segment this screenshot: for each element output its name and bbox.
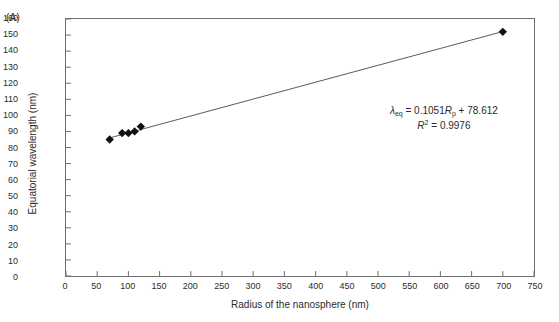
y-tick-label: 140 bbox=[0, 45, 18, 55]
y-tick-label: 50 bbox=[0, 191, 18, 201]
y-tick-label: 160 bbox=[0, 13, 18, 23]
y-tick-label: 70 bbox=[0, 159, 18, 169]
y-tick-label: 10 bbox=[0, 256, 18, 266]
y-tick-label: 110 bbox=[0, 94, 18, 104]
y-tick-label: 20 bbox=[0, 240, 18, 250]
x-tick-label: 750 bbox=[515, 281, 555, 291]
y-tick-label: 80 bbox=[0, 143, 18, 153]
plot-area bbox=[65, 18, 535, 277]
y-axis-title: Equatorial wavelength (nm) bbox=[27, 44, 38, 264]
r-squared-value: R2 = 0.9976 bbox=[390, 119, 498, 134]
axis-ticks bbox=[66, 19, 534, 276]
y-tick-label: 100 bbox=[0, 110, 18, 120]
plot-canvas bbox=[66, 19, 534, 276]
y-tick-label: 90 bbox=[0, 126, 18, 136]
regression-equation: λeq = 0.1051Rp + 78.612 bbox=[390, 104, 498, 119]
y-tick-label: 30 bbox=[0, 223, 18, 233]
regression-annotation: λeq = 0.1051Rp + 78.612 R2 = 0.9976 bbox=[390, 104, 498, 133]
y-tick-label: 120 bbox=[0, 78, 18, 88]
y-tick-label: 130 bbox=[0, 62, 18, 72]
y-tick-label: 60 bbox=[0, 175, 18, 185]
y-tick-label: 0 bbox=[0, 272, 18, 282]
y-tick-label: 40 bbox=[0, 207, 18, 217]
y-tick-label: 150 bbox=[0, 29, 18, 39]
x-axis-title: Radius of the nanosphere (nm) bbox=[65, 299, 535, 310]
figure-panel-a: (A) Equatorial wavelength (nm) Radius of… bbox=[0, 0, 559, 322]
